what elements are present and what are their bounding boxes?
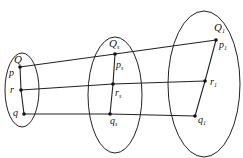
point-p [18, 65, 22, 69]
point-q-1 [193, 114, 197, 118]
label-p: p [8, 67, 14, 78]
label-p-s: ps [115, 59, 124, 71]
label-q-s: qs [110, 115, 118, 127]
point-p-1 [214, 38, 218, 42]
label-q: q [13, 107, 18, 118]
point-p-s [113, 52, 117, 56]
label-r: r [10, 84, 14, 95]
point-r-s [111, 82, 115, 86]
label-r-s: rs [115, 87, 122, 99]
point-q [22, 112, 26, 116]
label-p-1: p1 [218, 39, 227, 51]
label-q-1: q1 [198, 114, 206, 126]
label-set-q-s: Qs [109, 37, 120, 50]
point-r-1 [203, 79, 207, 83]
label-set-q: Q [14, 53, 22, 65]
point-r [19, 88, 23, 92]
label-r-1: r1 [210, 76, 217, 88]
path-diagram: Q p r q Qs ps rs qs Q1 p1 r1 q1 [0, 0, 243, 158]
